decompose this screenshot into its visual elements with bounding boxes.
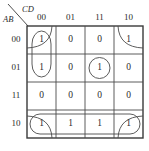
cell-r00-c01: 0 <box>68 34 73 44</box>
cell-r10-c11: 1 <box>97 118 102 128</box>
cell-r11-c11: 0 <box>97 90 102 100</box>
row-axis-label: AB <box>2 14 13 24</box>
row-header-11: 11 <box>12 90 21 100</box>
cell-r01-c11: 1 <box>97 62 102 72</box>
column-axis-label: CD <box>22 4 35 14</box>
row-header-10: 10 <box>12 118 22 128</box>
column-header-row: 00 01 11 10 <box>37 12 134 22</box>
row-header-01: 01 <box>12 62 21 72</box>
column-header-00: 00 <box>37 12 47 22</box>
cell-r11-c00: 0 <box>39 90 44 100</box>
column-header-01: 01 <box>66 12 75 22</box>
column-header-11: 11 <box>95 12 104 22</box>
cell-r11-c01: 0 <box>68 90 73 100</box>
cell-r00-c00: 1 <box>39 34 44 44</box>
cell-r10-c00: 1 <box>39 118 44 128</box>
cell-r01-c10: 0 <box>126 62 131 72</box>
header-corner-cell: CD AB <box>2 4 35 26</box>
row-header-column: 00 01 11 10 <box>12 34 22 128</box>
cell-r01-c01: 0 <box>68 62 73 72</box>
row-header-00: 00 <box>12 34 22 44</box>
cell-r10-c01: 1 <box>68 118 73 128</box>
cell-r11-c10: 0 <box>126 90 131 100</box>
cell-r00-c11: 0 <box>97 34 102 44</box>
cell-r01-c00: 1 <box>39 62 44 72</box>
cell-r10-c10: 1 <box>126 118 131 128</box>
cell-r00-c10: 1 <box>126 34 131 44</box>
column-header-10: 10 <box>124 12 134 22</box>
karnaugh-map-diagram: CD AB 00 01 11 10 00 01 11 10 <box>0 0 149 151</box>
karnaugh-map-canvas: CD AB 00 01 11 10 00 01 11 10 <box>0 0 149 151</box>
